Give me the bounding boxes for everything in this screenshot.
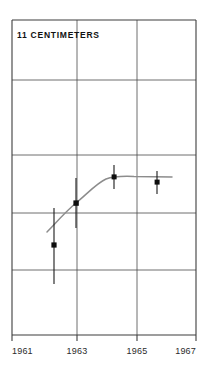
- marker-1: [51, 242, 56, 247]
- chart-canvas: 11 CENTIMETERS 1961 1963 1965 1967: [0, 0, 216, 370]
- marker-3: [112, 174, 117, 179]
- chart-figure: 11 CENTIMETERS 1961 1963 1965 1967: [0, 0, 216, 370]
- x-tick-label-1963: 1963: [67, 346, 88, 356]
- x-tick-label-1961: 1961: [12, 346, 33, 356]
- x-tick-label-1967: 1967: [175, 346, 196, 356]
- panel-title: 11 CENTIMETERS: [17, 30, 100, 40]
- marker-2: [73, 200, 78, 205]
- x-tick-label-1965: 1965: [127, 346, 148, 356]
- marker-4: [155, 180, 160, 185]
- x-axis-ticks: [12, 335, 196, 341]
